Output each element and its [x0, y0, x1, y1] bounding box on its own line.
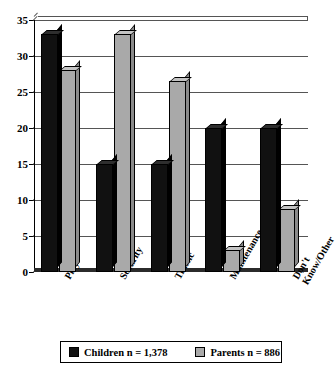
legend-item-parents: Parents n = 886	[195, 342, 280, 362]
bar-children	[205, 128, 222, 272]
y-axis-tick-label: 30	[4, 51, 28, 61]
y-axis-tick-label: 25	[4, 87, 28, 97]
y-axis-tick-label: 15	[4, 159, 28, 169]
legend-swatch-parents	[195, 347, 205, 357]
y-axis-tick-label: 0	[4, 267, 28, 277]
bars-layer	[34, 20, 308, 272]
y-axis-tick-label: 35	[4, 15, 28, 25]
bar-group	[41, 20, 76, 272]
plot-wrapper: 05101520253035 PlaySecurityTrafficMainte…	[0, 0, 327, 300]
y-axis-tick-label: 5	[4, 231, 28, 241]
x-axis-labels: PlaySecurityTrafficMaintenanceDon'tKnow/…	[34, 276, 308, 346]
bar-front-face	[260, 128, 277, 272]
y-axis-tick-label: 10	[4, 195, 28, 205]
legend-label-parents: Parents n = 886	[210, 347, 280, 358]
legend-item-children: Children n = 1,378	[69, 342, 167, 362]
bar-children	[260, 128, 277, 272]
bar-children	[41, 34, 58, 272]
bar-group	[260, 20, 295, 272]
legend-label-children: Children n = 1,378	[84, 347, 167, 358]
y-axis-tick-label: 20	[4, 123, 28, 133]
bar-children	[96, 164, 113, 272]
bar-children	[151, 164, 168, 272]
bar-front-face	[151, 164, 168, 272]
bar-group	[96, 20, 131, 272]
bar-group	[151, 20, 186, 272]
bar-front-face	[96, 164, 113, 272]
bar-front-face	[205, 128, 222, 272]
bar-front-face	[41, 34, 58, 272]
bar-group	[205, 20, 240, 272]
plot-wall-top-edge	[38, 16, 308, 17]
legend-swatch-children	[69, 347, 79, 357]
chart-legend: Children n = 1,378 Parents n = 886	[60, 341, 282, 363]
y-axis: 05101520253035	[0, 0, 28, 300]
